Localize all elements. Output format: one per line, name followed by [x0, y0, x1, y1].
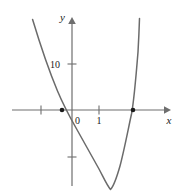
graph-figure: x y 0 1 10: [0, 0, 181, 194]
x-axis: [12, 106, 171, 115]
x-axis-label: x: [166, 114, 172, 126]
y-axis-label: y: [59, 11, 65, 23]
root-point-right: [131, 108, 136, 113]
y-tick-label-ten: 10: [50, 59, 60, 70]
root-point-left: [60, 108, 65, 113]
parabola-curve: [33, 19, 140, 190]
y-axis-arrow-icon: [68, 17, 76, 24]
x-tick-label-one: 1: [97, 115, 102, 126]
parabola-path: [33, 19, 140, 190]
y-axis: [68, 17, 77, 186]
parabola-plot-svg: x y 0 1 10: [0, 0, 181, 194]
x-axis-arrow-icon: [164, 106, 171, 114]
origin-label: 0: [75, 115, 80, 126]
